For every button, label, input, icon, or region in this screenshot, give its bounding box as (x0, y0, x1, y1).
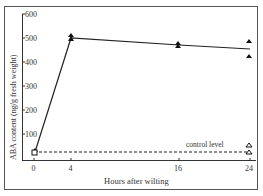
open-triangle-icon (246, 143, 252, 147)
y-tick-label: 400 (25, 58, 37, 67)
open-triangle-icon (246, 150, 252, 154)
wilted-series-line (35, 38, 250, 152)
x-tick-label: 16 (174, 164, 182, 173)
y-tick-label: 300 (25, 82, 37, 91)
y-axis: 600 500 400 300 200 100 ABA content (ng/… (9, 10, 37, 160)
y-axis-label: ABA content (ng/g fresh weight) (9, 54, 18, 160)
y-tick-label: 200 (25, 106, 37, 115)
y-tick-label: 100 (25, 130, 37, 139)
wilted-series-markers (32, 33, 252, 152)
open-square-icon (32, 150, 37, 155)
control-level-annotation: control level (186, 140, 224, 149)
y-tick-label: 600 (25, 10, 37, 19)
filled-triangle-icon (246, 54, 252, 58)
x-axis-label: Hours after wilting (104, 176, 169, 186)
figure-frame (5, 7, 258, 190)
x-tick-label: 0 (32, 164, 36, 173)
x-axis: 0 4 16 24 Hours after wilting (22, 158, 256, 186)
filled-triangle-icon (246, 39, 252, 43)
x-tick-label: 24 (245, 164, 253, 173)
aba-content-chart: 600 500 400 300 200 100 ABA content (ng/… (0, 0, 263, 196)
y-tick-label: 500 (25, 34, 37, 43)
x-tick-label: 4 (69, 164, 73, 173)
